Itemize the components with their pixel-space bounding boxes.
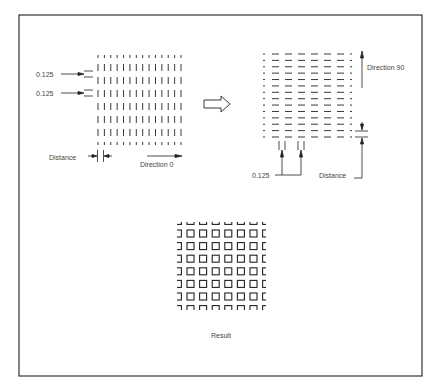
result-label: Result (211, 332, 231, 340)
outer-frame (19, 15, 422, 376)
distance-label-right: Distance (319, 172, 346, 180)
right-hollow-arrow-icon (204, 96, 230, 112)
right-annotations (275, 51, 368, 178)
right-hatch-grid (263, 54, 352, 137)
left-annotations (61, 71, 182, 162)
left-hatch-grid (98, 55, 181, 145)
spacing-label-1: 0.125 (36, 71, 54, 79)
spacing-label-2: 0.125 (36, 90, 54, 98)
direction-90-label: Direction 90 (367, 64, 404, 72)
distance-label-left: Distance (49, 154, 76, 162)
result-grid (174, 217, 269, 312)
direction-0-label: Direction 0 (140, 161, 173, 169)
diagram-canvas (0, 0, 436, 384)
spacing-label-right: 0.125 (252, 172, 270, 180)
